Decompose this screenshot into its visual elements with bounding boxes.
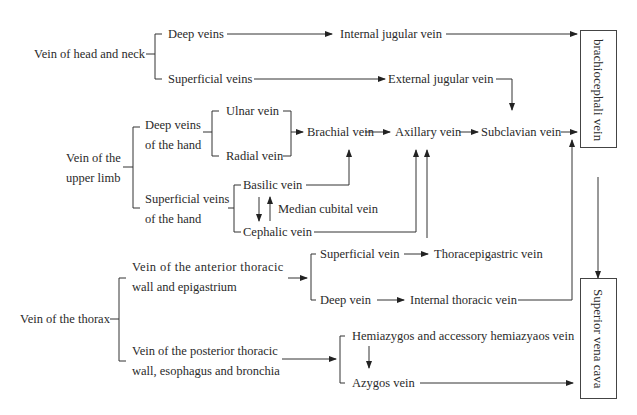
median-cubital-vein: Median cubital vein (278, 201, 378, 217)
axillary-vein: Axillary vein (395, 124, 461, 140)
superior-vena-cava-label: Superior vena cava (590, 289, 606, 389)
upper-limb-label-line2: upper limb (66, 168, 121, 188)
anterior-thoracic-line2: wall and epigastrium (132, 277, 237, 297)
brachiocephalic-vein-box: brachiocephali vein (580, 30, 617, 148)
deep-veins-hand-line2: of the hand (145, 135, 201, 155)
head-neck-label: Vein of head and neck (34, 46, 145, 62)
brachial-vein: Brachial vein (307, 124, 374, 140)
deep-veins-hand-line1: Deep veins (145, 115, 201, 135)
thorax-deep-vein: Deep vein (320, 292, 371, 308)
internal-thoracic-vein: Internal thoracic vein (410, 292, 517, 308)
external-jugular-vein: External jugular vein (388, 71, 494, 87)
brachiocephalic-vein-label: brachiocephali vein (590, 39, 606, 141)
posterior-thoracic-line2: wall, esophagus and bronchia (132, 361, 280, 381)
basilic-vein: Basilic vein (243, 177, 302, 193)
subclavian-vein: Subclavian vein (481, 124, 561, 140)
superficial-veins-hand-line2: of the hand (145, 209, 201, 229)
radial-vein: Radial vein (226, 148, 283, 164)
posterior-thoracic-line1: Vein of the posterior thoracic (132, 341, 278, 361)
head-neck-deep-veins: Deep veins (168, 26, 224, 42)
azygos-vein: Azygos vein (352, 375, 415, 391)
thoracepigastric-vein: Thoracepigastric vein (434, 246, 543, 262)
thorax-superficial-vein: Superficial vein (320, 246, 400, 262)
superior-vena-cava-box: Superior vena cava (580, 278, 617, 399)
hemiazygos-vein: Hemiazygos and accessory hemiazyaos vein (352, 328, 574, 344)
upper-limb-label-line1: Vein of the (66, 148, 121, 168)
cephalic-vein: Cephalic vein (243, 224, 312, 240)
head-neck-superficial-veins: Superficial veins (168, 71, 252, 87)
thorax-label: Vein of the thorax (20, 311, 110, 327)
anterior-thoracic-line1: Vein of the anterior thoracic (132, 257, 284, 277)
ulnar-vein: Ulnar vein (226, 103, 279, 119)
superficial-veins-hand-line1: Superficial veins (145, 189, 229, 209)
internal-jugular-vein: Internal jugular vein (340, 26, 442, 42)
